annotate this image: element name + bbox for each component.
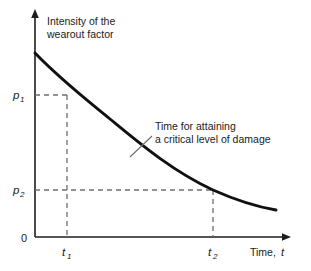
t2-label: t: [208, 246, 212, 258]
y-axis-title-line1: Intensity of the: [47, 15, 115, 27]
x-axis-title: Time,: [250, 246, 276, 258]
p1-label-subscript: 1: [20, 95, 24, 104]
x-axis-title-variable: t: [281, 246, 285, 258]
t1-label-subscript: 1: [67, 252, 71, 261]
chart-canvas: Intensity of the wearout factor Time for…: [0, 0, 311, 271]
origin-label: 0: [21, 232, 27, 244]
annotation-line1: Time for attaining: [155, 120, 236, 132]
t2-label-subscript: 2: [212, 252, 218, 261]
y-axis-title-line2: wearout factor: [46, 28, 114, 40]
x-axis-arrowhead: [282, 233, 291, 241]
y-axis-arrowhead: [31, 9, 39, 18]
p2-label: p: [12, 184, 20, 196]
p2-label-subscript: 2: [19, 190, 25, 199]
annotation-line2: a critical level of damage: [155, 133, 271, 145]
wearout-decay-chart: Intensity of the wearout factor Time for…: [0, 0, 311, 271]
p1-label: p: [12, 89, 20, 101]
t1-label: t: [62, 246, 66, 258]
